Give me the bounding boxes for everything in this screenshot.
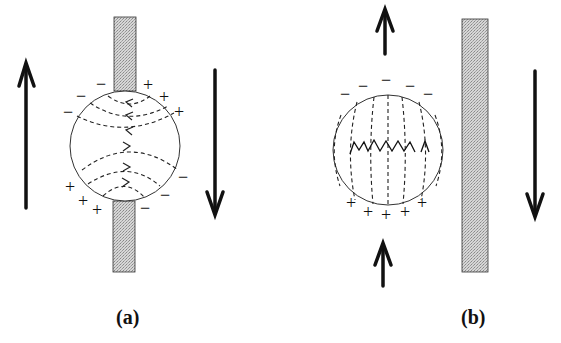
negative-charge: − (76, 86, 86, 106)
conductor-strip (462, 19, 488, 272)
positive-charge: + (417, 193, 427, 213)
negative-charge: − (160, 185, 170, 205)
negative-charge: − (140, 198, 150, 218)
conductor-strip-top (114, 17, 136, 91)
arrow-down-icon (527, 71, 543, 217)
panel-label-b-text: (b) (461, 306, 485, 328)
negative-charge: − (96, 74, 106, 94)
panel-a: − − − + + + + + + − − − (19, 17, 223, 272)
negative-charge: − (63, 102, 73, 122)
arrow-up-icon (19, 63, 34, 208)
negative-charge: − (358, 76, 368, 96)
figure-canvas: − − − + + + + + + − − − (0, 0, 561, 343)
conductor-strip-bottom (113, 201, 135, 272)
positive-charge: + (92, 200, 102, 220)
positive-charge: + (159, 87, 169, 107)
panel-label-a: (a) (116, 306, 139, 329)
arrow-up-icon (375, 243, 391, 286)
positive-charge: + (346, 193, 356, 213)
panel-label-a-text: (a) (116, 306, 139, 328)
panel-b: − − − − − + + + + + (333, 9, 543, 286)
negative-charge: − (381, 70, 391, 90)
panel-label-b: (b) (461, 306, 485, 329)
positive-charge: + (363, 202, 373, 222)
arrow-up-icon (377, 9, 393, 54)
positive-charge: + (143, 75, 153, 95)
negative-charge: − (340, 84, 350, 104)
positive-charge: + (65, 177, 75, 197)
positive-charge: + (174, 102, 184, 122)
positive-charge: + (78, 191, 88, 211)
negative-charge: − (178, 167, 188, 187)
arrow-down-icon (207, 70, 223, 215)
negative-charge: − (423, 84, 433, 104)
positive-charge: + (381, 205, 391, 225)
positive-charge: + (400, 202, 410, 222)
negative-charge: − (405, 76, 415, 96)
